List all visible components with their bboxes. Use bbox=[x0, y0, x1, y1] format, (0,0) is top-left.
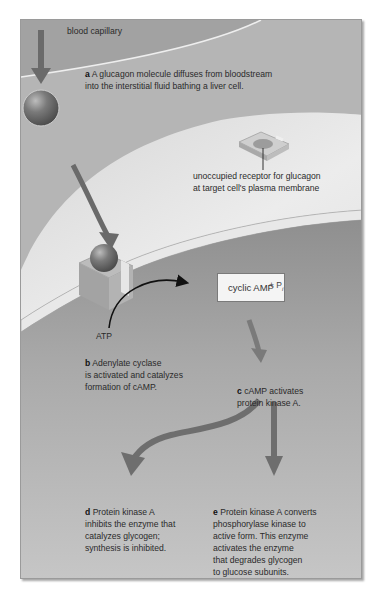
step-b-text: Adenylate cyclase is activated and catal… bbox=[85, 358, 183, 392]
phosphate-text: + P bbox=[269, 280, 282, 290]
step-a-letter: a bbox=[85, 69, 90, 79]
step-d-label: d Protein kinase A inhibits the enzyme t… bbox=[85, 506, 175, 554]
receptor-label: unoccupied receptor for glucagon at targ… bbox=[193, 170, 321, 194]
step-b-label: b Adenylate cyclase is activated and cat… bbox=[85, 357, 183, 393]
step-d-text: Protein kinase A inhibits the enzyme tha… bbox=[85, 507, 175, 553]
blood-capillary-label: blood capillary bbox=[67, 25, 122, 37]
step-e-text: Protein kinase A converts phosphorylase … bbox=[213, 507, 317, 577]
atp-label: ATP bbox=[96, 330, 112, 342]
diagram-frame: blood capillary a A glucagon molecule di… bbox=[20, 19, 362, 579]
diagram-illustration bbox=[21, 20, 362, 579]
bound-glucagon-molecule bbox=[90, 244, 118, 272]
step-a-text: A glucagon molecule diffuses from bloods… bbox=[85, 69, 272, 91]
step-c-text: cAMP activates protein kinase A. bbox=[237, 386, 303, 408]
step-e-label: e Protein kinase A converts phosphorylas… bbox=[213, 506, 317, 578]
step-c-label: c cAMP activates protein kinase A. bbox=[237, 385, 303, 409]
step-b-letter: b bbox=[85, 358, 90, 368]
step-c-letter: c bbox=[237, 386, 242, 396]
cyclic-amp-label: cyclic AMP bbox=[228, 282, 274, 293]
glucagon-molecule-free bbox=[23, 90, 59, 126]
phosphate-subscript: i bbox=[282, 286, 283, 292]
step-e-letter: e bbox=[213, 507, 218, 517]
step-a-label: a A glucagon molecule diffuses from bloo… bbox=[85, 68, 272, 92]
step-d-letter: d bbox=[85, 507, 90, 517]
phosphate-label: + Pi bbox=[269, 280, 283, 292]
